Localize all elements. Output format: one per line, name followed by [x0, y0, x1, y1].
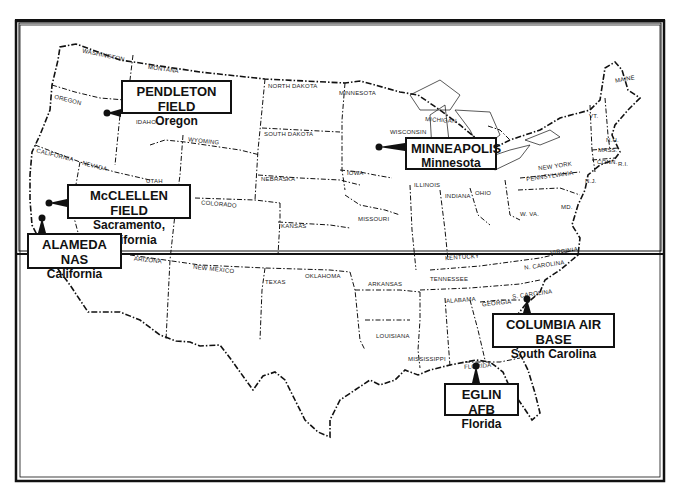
callout-name: McCLELLEN FIELD [73, 188, 185, 218]
callout-name: PENDLETON FIELD [127, 84, 226, 114]
callout-location: Florida [450, 417, 513, 432]
location-pin-icon [473, 363, 480, 370]
location-callout: PENDLETON FIELDOregon [121, 80, 232, 114]
location-callout: McCLELLEN FIELDSacramento, California [67, 184, 191, 219]
location-pin-icon [376, 144, 383, 151]
location-pin-icon [46, 200, 53, 207]
callout-name: EGLIN AFB [450, 387, 513, 417]
location-pin-icon [524, 296, 531, 303]
location-pin-icon [104, 110, 111, 117]
location-callout: COLUMBIA AIR BASESouth Carolina [492, 313, 615, 348]
callout-location: Minnesota [411, 156, 491, 171]
callout-name: ALAMEDA NAS [33, 237, 116, 267]
callout-location: South Carolina [498, 347, 609, 362]
callout-location: California [33, 267, 116, 282]
location-pin-icon [39, 215, 46, 222]
location-callout: ALAMEDA NASCalifornia [27, 233, 122, 269]
location-callout: MINNEAPOLISMinnesota [405, 137, 497, 170]
callout-name: MINNEAPOLIS [411, 141, 491, 156]
location-callout: EGLIN AFBFlorida [444, 383, 519, 416]
callout-location: Oregon [127, 114, 226, 129]
callout-name: COLUMBIA AIR BASE [498, 317, 609, 347]
